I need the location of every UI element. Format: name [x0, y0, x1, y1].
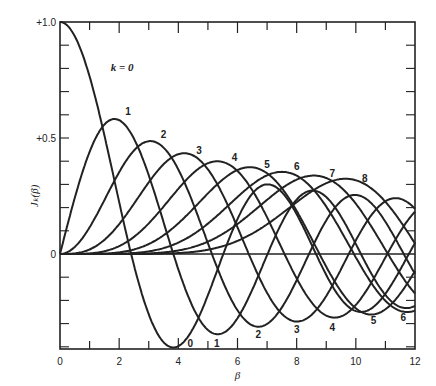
y-tick-label: 0	[50, 249, 56, 260]
curve-label: 5	[371, 315, 377, 326]
x-tick-label: 4	[176, 356, 182, 367]
curve-label: 7	[329, 168, 335, 179]
curve-label: 0	[187, 338, 193, 349]
curve-label: k = 0	[111, 61, 134, 73]
curve-label: 4	[232, 152, 238, 163]
curve-label: 3	[294, 324, 300, 335]
y-tick-label: +1.0	[36, 17, 56, 28]
x-tick-label: 10	[350, 356, 362, 367]
curve-label: 2	[255, 329, 261, 340]
curve-label: 6	[400, 312, 406, 323]
curve-label: 6	[294, 161, 300, 172]
x-tick-label: 12	[409, 356, 421, 367]
curve-label: 1	[214, 338, 220, 349]
x-tick-label: 0	[57, 356, 63, 367]
curve-label: 8	[362, 173, 368, 184]
x-tick-label: 6	[235, 356, 241, 367]
x-tick-label: 2	[116, 356, 122, 367]
curve-label: 1	[125, 106, 131, 117]
x-axis-label: β	[234, 369, 241, 381]
x-tick-label: 8	[294, 356, 300, 367]
bessel-chart: 024681012+1.0+0.50βJₖ(β)k = 012345678012…	[0, 0, 436, 386]
y-axis-label: Jₖ(β)	[28, 184, 41, 207]
curve-label: 5	[264, 159, 270, 170]
curve-label: 4	[329, 322, 335, 333]
curve-label: 3	[196, 145, 202, 156]
series-8	[60, 179, 415, 254]
y-tick-label: +0.5	[36, 133, 56, 144]
series-7	[60, 176, 415, 294]
curve-label: 2	[161, 129, 167, 140]
